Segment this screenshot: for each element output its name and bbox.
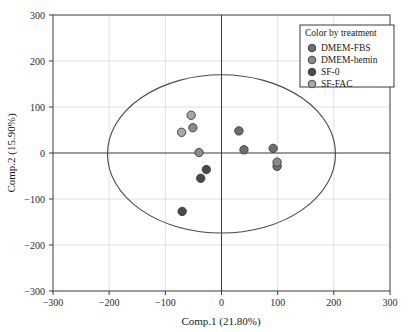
legend-marker[interactable] — [308, 56, 316, 64]
x-axis-tick-labels: −300−200−1000100200300 — [43, 297, 398, 308]
data-point[interactable] — [187, 111, 195, 119]
legend-marker[interactable] — [308, 68, 316, 76]
x-tick-label: 100 — [270, 297, 285, 308]
legend-label[interactable]: DMEM-FBS — [321, 43, 371, 53]
legend-label[interactable]: DMEM-hemin — [321, 55, 378, 65]
data-points-layer — [177, 111, 281, 216]
x-tick-label: 300 — [383, 297, 398, 308]
data-point[interactable] — [240, 146, 248, 154]
y-tick-label: 200 — [30, 56, 45, 67]
y-axis-tick-labels: 3002001000−100−200−300 — [24, 10, 45, 297]
x-tick-label: −100 — [155, 297, 176, 308]
data-point[interactable] — [195, 148, 203, 156]
x-axis-title: Comp.1 (21.80%) — [181, 315, 260, 328]
legend-marker[interactable] — [308, 44, 316, 52]
data-point[interactable] — [202, 165, 210, 173]
x-tick-label: 200 — [326, 297, 341, 308]
x-tick-label: 0 — [219, 297, 224, 308]
x-tick-label: −300 — [43, 297, 64, 308]
y-tick-label: −200 — [24, 240, 45, 251]
scatter-plot: −300−200−1000100200300 3002001000−100−20… — [0, 0, 408, 332]
data-point[interactable] — [177, 128, 185, 136]
y-axis-title: Comp.2 (15.90%) — [5, 113, 18, 192]
legend: Color by treatmentDMEM-FBSDMEM-heminSF-0… — [300, 25, 394, 89]
data-point[interactable] — [269, 144, 277, 152]
chart-container: −300−200−1000100200300 3002001000−100−20… — [0, 0, 408, 332]
data-point[interactable] — [235, 127, 243, 135]
y-tick-label: 100 — [30, 102, 45, 113]
data-point[interactable] — [197, 174, 205, 182]
y-tick-label: −300 — [24, 286, 45, 297]
data-point[interactable] — [273, 158, 281, 166]
y-tick-label: 300 — [30, 10, 45, 21]
data-point[interactable] — [178, 207, 186, 215]
legend-label[interactable]: SF-0 — [321, 67, 340, 77]
legend-label[interactable]: SF-FAC — [321, 79, 353, 89]
y-tick-label: 0 — [40, 148, 45, 159]
x-tick-label: −200 — [99, 297, 120, 308]
data-point[interactable] — [189, 124, 197, 132]
y-tick-label: −100 — [24, 194, 45, 205]
legend-title: Color by treatment — [305, 28, 377, 38]
legend-marker[interactable] — [308, 80, 316, 88]
